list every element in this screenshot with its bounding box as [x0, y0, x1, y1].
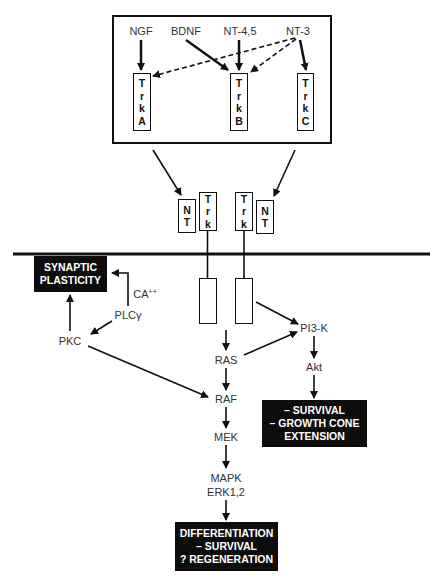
node-pi3k: PI3-K — [300, 322, 328, 335]
ligand-nt3: NT-3 — [286, 25, 310, 38]
node-plc-gamma: PLCγ — [115, 309, 142, 322]
receptor-trka: T r k A — [133, 73, 151, 131]
node-pkc: PKC — [59, 335, 82, 348]
node-erk: ERK1,2 — [207, 486, 245, 499]
outcome-synaptic-plasticity: SYNAPTIC PLASTICITY — [34, 256, 107, 292]
node-raf: RAF — [215, 393, 237, 406]
ligand-ngf: NGF — [129, 25, 152, 38]
outcome-differentiation: DIFFERENTIATION – SURVIVAL ? REGENERATIO… — [175, 522, 278, 571]
node-mapk: MAPK — [210, 472, 241, 485]
trk-right-extracellular: T r k — [235, 192, 253, 231]
receptor-trkc: T r k C — [297, 73, 314, 131]
trk-left-kinase-domain — [199, 278, 217, 324]
trk-right-kinase-domain — [235, 278, 253, 324]
outcome-survival-growth-cone: – SURVIVAL – GROWTH CONE EXTENSION — [262, 400, 367, 447]
trk-left-extracellular: T r k — [199, 192, 217, 231]
node-mek: MEK — [214, 431, 238, 444]
arrow-to-left-nt — [153, 150, 181, 195]
neurotrophin-left: N T — [178, 199, 196, 233]
ligand-bdnf: BDNF — [171, 25, 201, 38]
receptor-trkb: T r k B — [230, 73, 248, 131]
neurotrophin-right: N T — [256, 200, 274, 234]
arrow-to-right-nt — [274, 150, 295, 196]
ligand-nt45: NT-4,5 — [223, 25, 256, 38]
node-ca: CA++ — [133, 285, 156, 302]
node-ras: RAS — [215, 354, 238, 367]
node-akt: Akt — [306, 361, 322, 374]
